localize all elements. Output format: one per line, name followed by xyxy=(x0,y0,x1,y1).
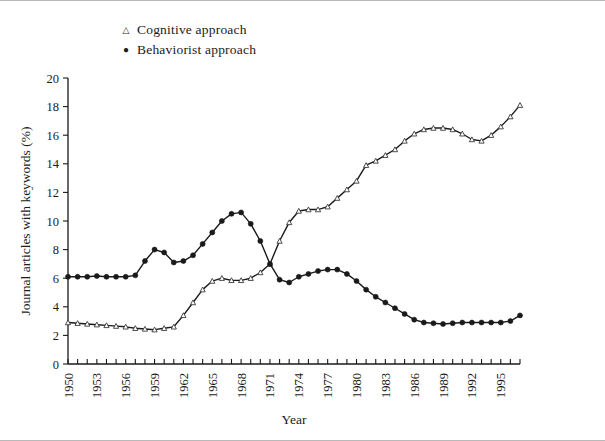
data-point-behaviorist xyxy=(171,260,176,265)
data-point-behaviorist xyxy=(287,280,292,285)
data-point-behaviorist xyxy=(85,274,90,279)
x-axis-tick-label: 1968 xyxy=(235,373,249,398)
chart-legend: △ Cognitive approach ● Behaviorist appro… xyxy=(118,20,256,60)
y-axis-tick-label: 18 xyxy=(47,100,60,114)
data-point-behaviorist xyxy=(75,274,80,279)
data-point-behaviorist xyxy=(508,319,513,324)
data-point-behaviorist xyxy=(66,274,71,279)
legend-item-cognitive: △ Cognitive approach xyxy=(118,20,256,40)
data-point-behaviorist xyxy=(191,253,196,258)
y-axis-title: Journal articles with keywords (%) xyxy=(18,127,33,316)
y-axis-tick-label: 16 xyxy=(47,129,60,143)
data-point-behaviorist xyxy=(354,279,359,284)
data-point-behaviorist xyxy=(219,219,224,224)
y-axis-tick-label: 12 xyxy=(47,186,60,200)
data-point-behaviorist xyxy=(402,311,407,316)
data-point-behaviorist xyxy=(210,230,215,235)
x-axis-tick-label: 1989 xyxy=(437,373,451,398)
chart-plot-area: 0246810121416182019501953195619591962196… xyxy=(0,0,605,441)
series-line-behaviorist xyxy=(68,212,520,324)
data-point-behaviorist xyxy=(373,294,378,299)
data-point-cognitive xyxy=(277,238,282,243)
figure-top-border xyxy=(0,0,605,1)
y-axis-tick-label: 14 xyxy=(47,157,60,171)
x-axis-tick-label: 1950 xyxy=(62,373,76,398)
data-point-behaviorist xyxy=(114,274,119,279)
legend-label-cognitive: Cognitive approach xyxy=(137,20,247,40)
y-axis-tick-label: 0 xyxy=(53,358,59,372)
y-axis-tick-label: 10 xyxy=(47,215,60,229)
data-point-cognitive xyxy=(517,103,522,108)
data-point-behaviorist xyxy=(162,250,167,255)
x-axis-tick-label: 1953 xyxy=(90,373,104,398)
x-axis-tick-label: 1992 xyxy=(465,373,479,398)
x-axis-title: Year xyxy=(282,412,307,427)
legend-label-behaviorist: Behaviorist approach xyxy=(137,40,256,60)
data-point-behaviorist xyxy=(392,306,397,311)
y-axis-tick-label: 6 xyxy=(53,272,59,286)
data-point-behaviorist xyxy=(450,321,455,326)
data-point-behaviorist xyxy=(229,211,234,216)
data-point-behaviorist xyxy=(123,274,128,279)
data-point-behaviorist xyxy=(489,320,494,325)
data-point-behaviorist xyxy=(412,317,417,322)
series-group xyxy=(65,103,522,332)
x-axis-tick-label: 1983 xyxy=(379,373,393,398)
data-point-behaviorist xyxy=(296,274,301,279)
x-axis-tick-label: 1971 xyxy=(263,373,277,398)
data-point-behaviorist xyxy=(441,321,446,326)
x-axis-tick-label: 1986 xyxy=(408,373,422,398)
y-axis-tick-label: 2 xyxy=(53,329,59,343)
data-point-behaviorist xyxy=(335,267,340,272)
data-point-behaviorist xyxy=(469,320,474,325)
data-point-behaviorist xyxy=(344,271,349,276)
y-axis-tick-label: 4 xyxy=(53,300,60,314)
data-point-behaviorist xyxy=(460,320,465,325)
x-axis-tick-label: 1974 xyxy=(292,372,306,398)
data-point-behaviorist xyxy=(152,247,157,252)
data-point-behaviorist xyxy=(431,321,436,326)
data-point-behaviorist xyxy=(239,210,244,215)
filled-circle-icon: ● xyxy=(118,40,134,60)
legend-item-behaviorist: ● Behaviorist approach xyxy=(118,40,256,60)
data-point-behaviorist xyxy=(94,274,99,279)
x-axis-tick-label: 1977 xyxy=(321,373,335,398)
data-point-behaviorist xyxy=(479,320,484,325)
x-axis-tick-label: 1962 xyxy=(177,373,191,398)
open-triangle-icon: △ xyxy=(118,20,134,40)
data-point-behaviorist xyxy=(248,221,253,226)
data-point-behaviorist xyxy=(104,274,109,279)
x-axis-tick-label: 1965 xyxy=(206,373,220,398)
data-point-behaviorist xyxy=(277,277,282,282)
y-axis-tick-label: 20 xyxy=(47,72,60,86)
data-point-behaviorist xyxy=(498,320,503,325)
data-point-behaviorist xyxy=(200,241,205,246)
data-point-behaviorist xyxy=(181,259,186,264)
x-axis-tick-label: 1956 xyxy=(119,373,133,398)
data-point-behaviorist xyxy=(267,261,272,266)
data-point-behaviorist xyxy=(258,239,263,244)
series-line-cognitive xyxy=(68,105,520,330)
data-point-behaviorist xyxy=(316,269,321,274)
x-axis-tick-label: 1995 xyxy=(494,373,508,398)
x-axis-tick-label: 1980 xyxy=(350,373,364,398)
y-axis-tick-label: 8 xyxy=(53,243,59,257)
data-point-behaviorist xyxy=(383,300,388,305)
figure-container: △ Cognitive approach ● Behaviorist appro… xyxy=(0,0,605,441)
x-axis-tick-label: 1959 xyxy=(148,373,162,398)
data-point-behaviorist xyxy=(518,313,523,318)
data-point-behaviorist xyxy=(306,271,311,276)
data-point-behaviorist xyxy=(421,320,426,325)
data-point-behaviorist xyxy=(133,273,138,278)
data-point-behaviorist xyxy=(364,287,369,292)
data-point-behaviorist xyxy=(142,259,147,264)
data-point-behaviorist xyxy=(325,267,330,272)
